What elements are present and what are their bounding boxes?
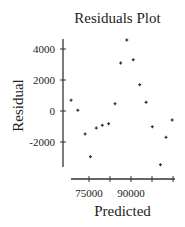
- residuals-scatter-plot: 400020000-2000 7500090000: [0, 0, 185, 227]
- y-axis: 400020000-2000: [29, 39, 66, 167]
- y-tick-label: 0: [50, 105, 56, 117]
- y-tick-label: 4000: [33, 43, 56, 55]
- y-tick-label: -2000: [29, 136, 55, 148]
- data-points: [70, 39, 174, 167]
- y-tick-label: 2000: [33, 74, 56, 86]
- x-tick-label: 90000: [117, 187, 145, 199]
- x-axis: 7500090000: [71, 176, 175, 199]
- x-tick-label: 75000: [75, 187, 103, 199]
